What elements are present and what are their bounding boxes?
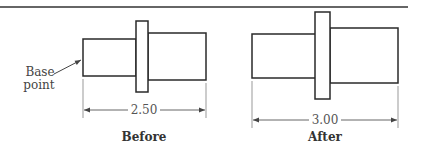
before-right-cylinder (148, 33, 206, 80)
before-left-cylinder (83, 39, 136, 76)
after-flange (315, 12, 330, 99)
after-caption: After (307, 130, 342, 144)
before-caption: Before (122, 130, 167, 144)
base-point-label-line1: Base (25, 65, 54, 79)
base-point-label-line2: point (23, 78, 54, 92)
base-point-leader-arrow (54, 60, 81, 74)
after-right-cylinder (330, 28, 398, 83)
before-dimension-value: 2.50 (131, 103, 158, 117)
after-dimension-value: 3.00 (312, 113, 339, 127)
before-flange (136, 21, 148, 92)
before-panel: 2.50 Before Base point (23, 21, 206, 144)
scale-diagram: 2.50 Before Base point 3.00 After (0, 0, 421, 153)
after-panel: 3.00 After (252, 12, 398, 144)
after-left-cylinder (252, 34, 316, 78)
